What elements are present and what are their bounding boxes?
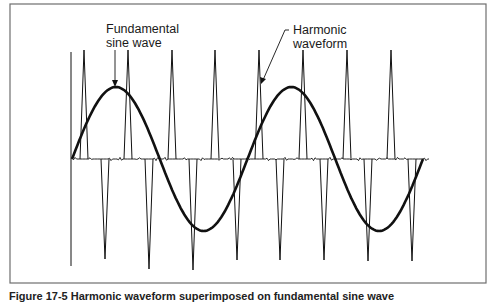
harmonic-spike-up (299, 50, 307, 159)
harmonic-spike-down (320, 159, 328, 260)
harmonic-spike-down (101, 159, 109, 259)
harmonic-spike-up (211, 50, 219, 159)
figure-caption: Figure 17-5 Harmonic waveform superimpos… (9, 290, 394, 302)
harmonic-spike-down (276, 159, 284, 260)
fundamental-label-line1: Fundamental (106, 22, 179, 36)
harmonic-spike-down (189, 159, 197, 270)
harmonic-baseline (72, 157, 429, 160)
harmonic-spike-up (255, 50, 263, 159)
harmonic-spike-up (80, 50, 88, 159)
harmonic-label-line2: waveform (293, 37, 347, 51)
figure-frame (10, 4, 486, 283)
harmonic-spike-up (168, 50, 176, 159)
fundamental-label-line2: sine wave (106, 36, 162, 50)
harmonic-spike-down (364, 159, 372, 261)
harmonic-label-line1: Harmonic (293, 23, 347, 37)
harmonic-spike-down (233, 159, 241, 260)
harmonic-spike-up (387, 50, 395, 159)
harmonic-arrowhead-icon (260, 77, 266, 84)
harmonic-spike-down (145, 159, 153, 269)
harmonic-waveform (71, 50, 429, 270)
harmonic-spike-up (124, 50, 132, 159)
harmonic-spike-up (343, 50, 351, 159)
harmonic-arrow-line (263, 30, 289, 80)
harmonic-spike-down (408, 159, 416, 261)
